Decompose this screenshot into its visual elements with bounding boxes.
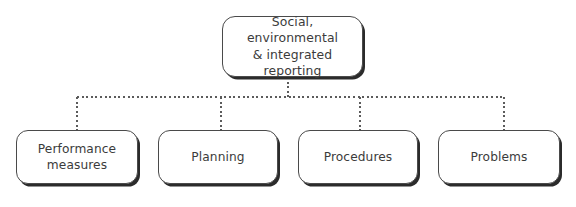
node-procedures: Procedures: [298, 130, 418, 184]
diagram-canvas: Social, environmental& integrated report…: [0, 0, 576, 207]
node-root-label-line-1: Social, environmental: [247, 14, 338, 45]
node-planning-label: Planning: [185, 149, 250, 165]
node-performance-measures-label-line-2: measures: [47, 158, 107, 172]
node-root-label: Social, environmental& integrated report…: [223, 14, 362, 80]
node-procedures-label: Procedures: [318, 149, 399, 165]
connector-bus-to-problems: [503, 97, 505, 131]
node-problems: Problems: [438, 130, 560, 184]
node-performance-measures-label: Performancemeasures: [32, 141, 122, 173]
node-root: Social, environmental& integrated report…: [222, 16, 363, 77]
node-performance-measures: Performancemeasures: [16, 130, 138, 184]
node-performance-measures-label-line-1: Performance: [38, 142, 116, 156]
connector-bus-to-planning: [220, 97, 222, 131]
node-planning: Planning: [158, 130, 278, 184]
connector-horizontal-bus: [77, 96, 504, 98]
connector-bus-to-procedures: [359, 97, 361, 131]
connector-root-to-bus: [287, 77, 289, 98]
node-root-label-line-2: & integrated reporting: [253, 47, 332, 78]
connector-bus-to-performance-measures: [76, 97, 78, 131]
node-problems-label: Problems: [465, 149, 534, 165]
